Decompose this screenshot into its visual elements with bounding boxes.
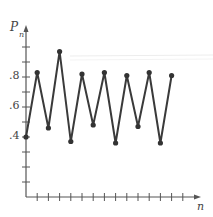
- data-point: [35, 70, 40, 75]
- faint-line: [70, 55, 213, 56]
- data-series: [23, 49, 174, 146]
- y-axis-label-subscript: n: [19, 30, 24, 39]
- faint-line: [70, 59, 213, 60]
- y-axis-label: P: [10, 20, 18, 34]
- data-point: [124, 73, 129, 78]
- data-point: [57, 49, 62, 54]
- data-point: [102, 70, 107, 75]
- y-axis-arrow-icon: [24, 25, 29, 32]
- data-point: [79, 71, 84, 76]
- data-point: [147, 70, 152, 75]
- data-point: [91, 122, 96, 127]
- y-tick-label-0.8: .8: [9, 69, 20, 82]
- data-point: [169, 73, 174, 78]
- data-point: [113, 140, 118, 145]
- x-axis-label: n: [197, 200, 204, 213]
- data-point: [158, 140, 163, 145]
- data-point: [68, 139, 73, 144]
- y-tick-label-0.6: .6: [9, 99, 20, 112]
- data-point: [23, 134, 28, 139]
- data-point: [46, 125, 51, 130]
- chart-area: [0, 0, 213, 217]
- y-tick-label-0.4: .4: [9, 129, 20, 142]
- data-point: [135, 124, 140, 129]
- x-axis-arrow-icon: [194, 195, 201, 200]
